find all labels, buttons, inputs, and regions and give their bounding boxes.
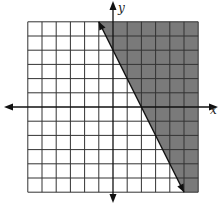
y-axis-down-arrow-icon bbox=[110, 194, 117, 203]
x-axis-label: x bbox=[210, 103, 217, 117]
inequality-graph: x y bbox=[0, 0, 220, 204]
x-axis-left-arrow-icon bbox=[4, 104, 13, 111]
y-axis-up-arrow-icon bbox=[110, 1, 117, 10]
y-axis-label: y bbox=[117, 1, 125, 15]
